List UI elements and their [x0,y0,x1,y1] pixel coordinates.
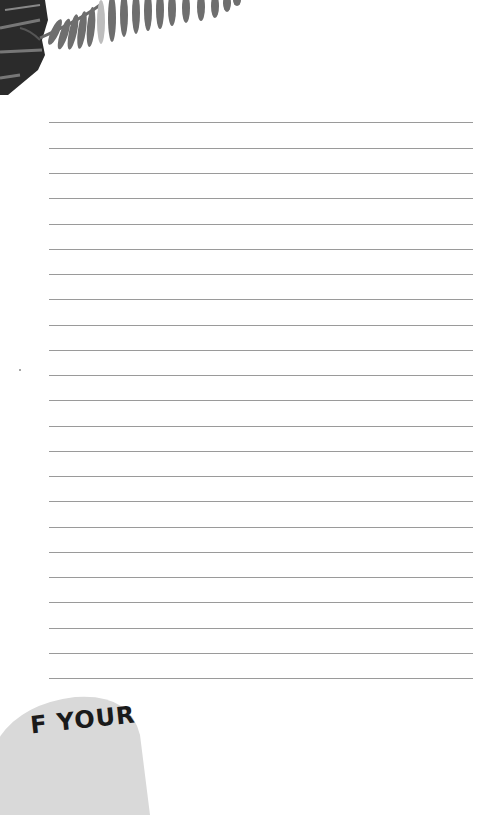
ruled-line [49,299,473,300]
ruled-line [49,198,473,199]
ruled-line [49,224,473,225]
ruled-line [49,375,473,376]
ruled-line [49,628,473,629]
ruled-line [49,325,473,326]
ruled-line [49,552,473,553]
ruled-line [49,602,473,603]
ruled-line [49,678,473,679]
ruled-line [49,501,473,502]
ruled-line [49,122,473,123]
ruled-line [49,476,473,477]
ruled-line [49,249,473,250]
ruled-line [49,451,473,452]
ruled-line [49,148,473,149]
ruled-line [49,350,473,351]
ruled-line [49,173,473,174]
ruled-line [49,426,473,427]
ruled-line [49,527,473,528]
ruled-line [49,577,473,578]
ruled-line [49,653,473,654]
speck-mark [19,369,21,371]
ruled-lines [49,0,473,740]
ruled-line [49,400,473,401]
ruled-line [49,274,473,275]
